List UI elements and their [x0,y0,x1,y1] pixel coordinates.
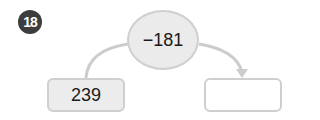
operation-oval: −181 [127,10,199,70]
arrowhead-icon [236,69,248,78]
input-value: 239 [71,85,101,106]
input-box: 239 [47,78,125,112]
operation-to-output-arc [199,44,242,72]
input-to-operation-arc [86,44,128,78]
answer-box[interactable] [204,78,282,112]
operation-label: −181 [143,30,184,51]
